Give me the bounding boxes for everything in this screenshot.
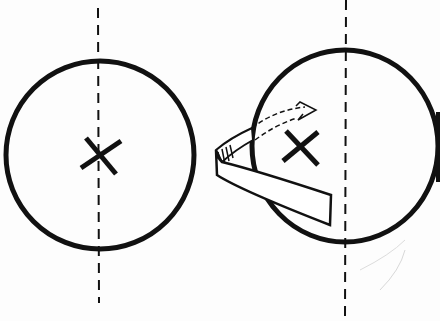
sketch <box>0 0 440 321</box>
right-center-x-icon <box>283 131 318 165</box>
edge-mark <box>436 112 440 182</box>
left-figure <box>6 8 194 303</box>
right-figure <box>216 0 438 318</box>
left-center-x-icon <box>81 138 121 174</box>
diagram-canvas <box>0 0 440 321</box>
